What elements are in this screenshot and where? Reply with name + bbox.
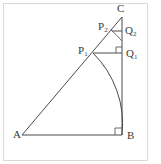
right-angle-mark-b <box>115 128 122 135</box>
geometry-figure: A B C P1 P2 Q1 Q2 <box>0 0 161 164</box>
label-q2-subscript: 2 <box>133 30 137 38</box>
figure-canvas <box>0 0 161 164</box>
label-q1-base: Q <box>126 47 134 59</box>
label-q1-subscript: 1 <box>134 53 138 61</box>
arc-p2-to-bc <box>111 30 122 41</box>
label-point-q2: Q2 <box>125 25 136 36</box>
segment-ac <box>22 17 122 135</box>
arc-p1-to-b <box>93 53 123 135</box>
label-p1-subscript: 1 <box>84 50 88 58</box>
label-point-p1: P1 <box>78 45 88 56</box>
label-point-q1: Q1 <box>126 48 137 59</box>
label-point-b: B <box>127 130 134 141</box>
label-point-p2: P2 <box>98 21 108 32</box>
label-point-a: A <box>13 129 21 140</box>
label-q2-base: Q <box>125 24 133 36</box>
label-p2-subscript: 2 <box>104 26 108 34</box>
right-angle-mark-q1 <box>116 47 122 53</box>
label-point-c: C <box>117 3 124 14</box>
